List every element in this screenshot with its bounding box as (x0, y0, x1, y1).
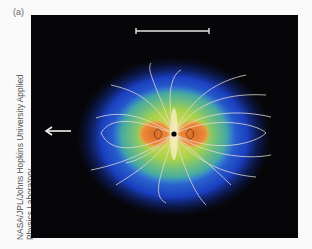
credit-line-1: NASA/JPL/Johns Hopkins University Applie… (15, 74, 25, 240)
magnetosphere-image (31, 15, 298, 238)
arrow-left-icon (46, 127, 71, 135)
planet (171, 131, 176, 136)
magnetosphere-figure (31, 15, 298, 238)
credit: NASA/JPL/Johns Hopkins University Applie… (0, 0, 30, 249)
scale-bar (136, 28, 209, 34)
